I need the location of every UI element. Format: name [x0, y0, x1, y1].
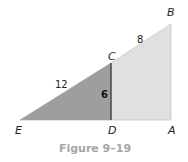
segment-label-cd: 6	[101, 89, 108, 100]
vertex-label-b: B	[167, 6, 175, 19]
triangle-ecd	[20, 63, 111, 120]
vertex-label-e: E	[15, 124, 22, 137]
segment-label-ec: 12	[55, 79, 68, 90]
vertex-label-a: A	[167, 124, 176, 137]
vertex-label-c: C	[108, 50, 116, 63]
similar-triangles-diagram: B C E D A 8 12 6 Figure 9–19	[0, 0, 188, 162]
segment-label-cb: 8	[137, 34, 143, 45]
vertex-label-d: D	[108, 124, 116, 137]
figure-caption: Figure 9–19	[59, 142, 131, 155]
